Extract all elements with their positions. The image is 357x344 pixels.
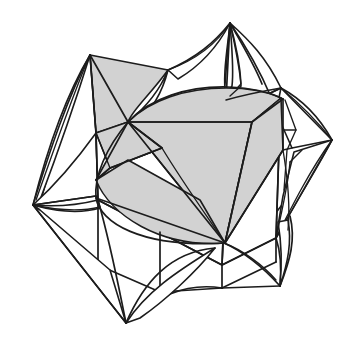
figure-container (0, 0, 357, 344)
spike-right-upper-facet (276, 88, 332, 148)
polyhedron-figure (0, 0, 357, 344)
cube-lower-back-edge (222, 262, 276, 288)
spike-bottomright-mid-edge (222, 286, 280, 288)
left-spike-group (33, 55, 100, 212)
spike-bottomleft-white-shell (126, 248, 215, 323)
spike-bottomleft-curve-outer (33, 205, 126, 323)
spike-top-left-sail (168, 23, 230, 79)
